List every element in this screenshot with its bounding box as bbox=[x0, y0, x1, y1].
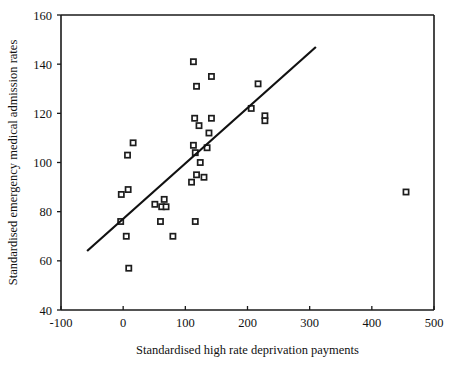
data-point-marker bbox=[158, 219, 163, 224]
x-tick-label: 300 bbox=[300, 316, 319, 330]
y-tick-label: 140 bbox=[33, 58, 52, 72]
data-point-marker bbox=[191, 59, 196, 64]
data-point-marker bbox=[196, 123, 201, 128]
data-points-layer bbox=[118, 59, 409, 271]
data-point-marker bbox=[194, 84, 199, 89]
x-tick-label: 500 bbox=[425, 316, 444, 330]
data-point-marker bbox=[163, 204, 168, 209]
x-tick-label: 0 bbox=[120, 316, 126, 330]
data-point-marker bbox=[403, 189, 408, 194]
data-point-marker bbox=[189, 180, 194, 185]
data-point-marker bbox=[119, 192, 124, 197]
data-point-marker bbox=[152, 202, 157, 207]
data-point-marker bbox=[206, 130, 211, 135]
plot-canvas: 406080100120140160 -1000100200300400500 … bbox=[0, 0, 455, 365]
x-tick-label: 400 bbox=[362, 316, 381, 330]
data-point-marker bbox=[201, 175, 206, 180]
x-tick-label: -100 bbox=[50, 316, 73, 330]
y-axis-title: Standardised emergency medical admission… bbox=[6, 40, 20, 286]
data-point-marker bbox=[209, 74, 214, 79]
x-axis-title: Standardised high rate deprivation payme… bbox=[136, 343, 359, 357]
y-axis-ticks: 406080100120140160 bbox=[33, 9, 61, 318]
data-point-marker bbox=[255, 81, 260, 86]
y-tick-label: 120 bbox=[33, 107, 52, 121]
axes-group bbox=[61, 15, 434, 310]
y-tick-label: 100 bbox=[33, 156, 52, 170]
x-tick-label: 200 bbox=[238, 316, 257, 330]
data-point-marker bbox=[198, 160, 203, 165]
data-point-marker bbox=[126, 266, 131, 271]
data-point-marker bbox=[131, 140, 136, 145]
scatter-chart: 406080100120140160 -1000100200300400500 … bbox=[0, 0, 455, 365]
data-point-marker bbox=[126, 187, 131, 192]
y-tick-label: 60 bbox=[40, 254, 53, 268]
data-point-marker bbox=[262, 118, 267, 123]
data-point-marker bbox=[124, 234, 129, 239]
y-tick-label: 160 bbox=[33, 9, 52, 23]
x-tick-label: 100 bbox=[176, 316, 195, 330]
data-point-marker bbox=[170, 234, 175, 239]
data-point-marker bbox=[192, 116, 197, 121]
data-point-marker bbox=[162, 197, 167, 202]
data-point-marker bbox=[209, 116, 214, 121]
data-point-marker bbox=[125, 153, 130, 158]
trend-line bbox=[87, 47, 316, 251]
data-point-marker bbox=[191, 143, 196, 148]
y-tick-label: 80 bbox=[40, 205, 53, 219]
data-point-marker bbox=[193, 219, 198, 224]
data-point-marker bbox=[194, 172, 199, 177]
